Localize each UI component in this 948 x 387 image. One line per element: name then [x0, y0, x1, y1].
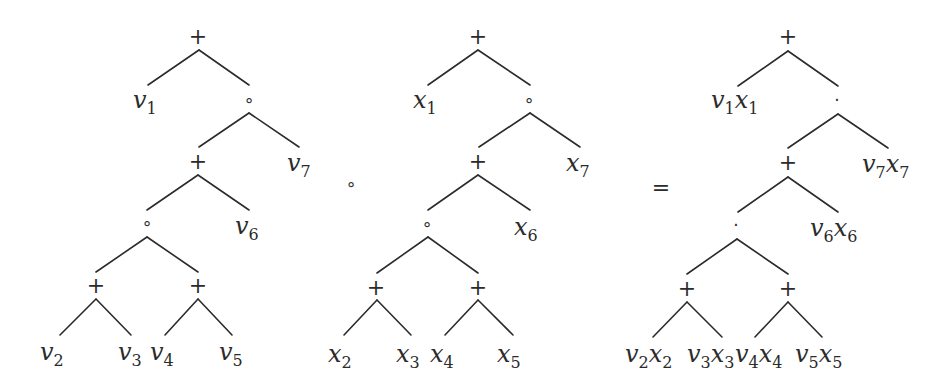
variable-symbol: v: [711, 86, 725, 114]
plus-operator-node: +: [469, 24, 487, 49]
leaf-node: x2: [328, 340, 352, 372]
variable-symbol: v: [118, 338, 132, 366]
subscript: 7: [301, 162, 311, 181]
variable-symbol: x: [711, 340, 725, 368]
variable-symbol: x: [413, 86, 427, 114]
plus-operator-node: +: [469, 149, 487, 174]
leaf-node: x4: [430, 340, 454, 372]
variable-symbol: x: [649, 340, 663, 368]
tree-edge: [428, 50, 478, 85]
variable-symbol: x: [514, 213, 528, 241]
tree-edge: [838, 114, 888, 148]
leaf-node: x7: [566, 149, 590, 181]
subscript: 5: [233, 351, 243, 370]
tree-edge: [479, 113, 530, 147]
tree-edge: [198, 175, 249, 210]
subscript: 4: [164, 351, 174, 370]
variable-symbol: x: [834, 214, 848, 242]
variable-symbol: x: [819, 340, 833, 368]
subscript: 1: [147, 99, 157, 118]
expression-tree-diagram: +v1∘+v7∘v6++v2v3v4v5 +x1∘+x7∘x6++x2x3x4x…: [0, 0, 948, 387]
product-leaf-node: v1x1: [711, 86, 758, 118]
tree-edge: [428, 237, 478, 273]
variable-symbol: v: [625, 340, 639, 368]
subscript: 3: [132, 351, 142, 370]
subscript: 5: [809, 353, 819, 372]
product-leaf-node: v3x3: [687, 340, 734, 372]
product-leaf-node: v4x4: [735, 340, 782, 372]
plus-operator-node: +: [469, 275, 487, 300]
variable-symbol: v: [687, 340, 701, 368]
subscript: 1: [427, 99, 437, 118]
dot-operator-node: ·: [733, 215, 738, 235]
tree-edge: [249, 113, 299, 147]
subscript: 1: [748, 99, 758, 118]
tree-edge: [738, 177, 788, 212]
plus-operator-node: +: [87, 273, 105, 298]
subscript: 3: [410, 353, 420, 372]
subscript: 5: [511, 353, 521, 372]
tree-edge: [147, 175, 198, 210]
variable-symbol: v: [219, 338, 233, 366]
subscript: 3: [724, 353, 734, 372]
subscript: 2: [54, 351, 64, 370]
subscript: 4: [772, 353, 782, 372]
tree-edge: [428, 175, 478, 210]
tree-edge: [687, 302, 722, 337]
plus-operator-node: +: [189, 273, 207, 298]
tree-edge: [445, 300, 478, 335]
tree-edge: [96, 299, 131, 335]
product-leaf-node: v2x2: [625, 340, 672, 372]
tree-edge: [165, 299, 198, 335]
tree-edge: [478, 50, 530, 85]
product-leaf-node: v6x6: [810, 214, 857, 246]
subscript: 6: [249, 225, 259, 244]
plus-operator-node: +: [189, 24, 207, 49]
subscript: 6: [847, 227, 857, 246]
tree-edge: [199, 50, 249, 85]
tree-edge: [96, 237, 147, 272]
subscript: 4: [444, 353, 454, 372]
plus-operator-node: +: [678, 276, 696, 301]
tree-edge: [198, 299, 232, 335]
leaf-node: v6: [235, 212, 259, 244]
subscript: 7: [899, 163, 909, 182]
leaf-node: x1: [413, 86, 437, 118]
tree-edge: [199, 113, 249, 147]
variable-symbol: v: [287, 149, 301, 177]
tree-edge: [377, 237, 428, 273]
variable-symbol: v: [862, 150, 876, 178]
leaf-node: v7: [287, 149, 311, 181]
middle-tree-x: +x1∘+x7∘x6++x2x3x4x5: [328, 24, 590, 372]
variable-symbol: x: [735, 86, 749, 114]
dot-operator-node: ·: [834, 90, 839, 110]
variable-symbol: v: [150, 338, 164, 366]
variable-symbol: x: [759, 340, 773, 368]
tree-edge: [60, 299, 96, 335]
subscript: 7: [876, 163, 886, 182]
plus-operator-node: +: [779, 24, 797, 49]
compose-operator-node: ∘: [422, 214, 433, 234]
plus-operator-node: +: [189, 149, 207, 174]
equals-operator: =: [652, 175, 670, 200]
tree-edge: [377, 300, 411, 335]
tree-edge: [755, 302, 788, 337]
tree-edge: [788, 114, 838, 148]
compose-operator-node: ∘: [524, 90, 535, 110]
variable-symbol: v: [810, 214, 824, 242]
subscript: 5: [832, 353, 842, 372]
subscript: 2: [639, 353, 649, 372]
subscript: 6: [824, 227, 834, 246]
tree-edge: [788, 302, 822, 337]
leaf-node: v1: [133, 86, 157, 118]
subscript: 2: [342, 353, 352, 372]
variable-symbol: x: [430, 340, 444, 368]
tree-edge: [737, 239, 788, 274]
subscript: 2: [662, 353, 672, 372]
left-tree-v: +v1∘+v7∘v6++v2v3v4v5: [40, 24, 311, 370]
leaf-node: v5: [219, 338, 243, 370]
variable-symbol: x: [328, 340, 342, 368]
compose-operator-node: ∘: [244, 90, 255, 110]
tree-edge: [530, 113, 580, 147]
variable-symbol: v: [133, 86, 147, 114]
